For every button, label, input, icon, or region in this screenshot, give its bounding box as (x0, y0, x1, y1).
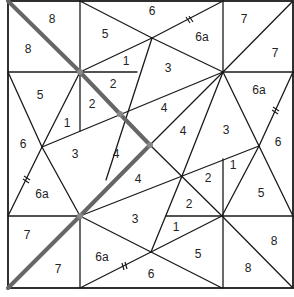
region-label: 3 (223, 123, 230, 137)
region-label: 1 (230, 158, 237, 172)
region-label: 1 (173, 220, 180, 234)
region-label: 3 (72, 147, 79, 161)
region-label: 5 (37, 88, 44, 102)
region-label: 2 (205, 171, 212, 185)
region-label: 7 (272, 46, 279, 60)
path-node (147, 142, 153, 148)
path-node (117, 111, 123, 117)
region-label: 6a (95, 250, 109, 264)
region-label: 2 (186, 197, 193, 211)
region-label: 5 (258, 186, 265, 200)
region-label: 2 (110, 77, 117, 91)
region-label: 7 (24, 228, 31, 242)
region-label: 4 (135, 172, 142, 186)
region-label: 3 (165, 61, 172, 75)
region-label: 5 (102, 27, 109, 41)
region-label: 6 (275, 135, 282, 149)
region-label: 6a (252, 83, 266, 97)
region-label: 8 (25, 42, 32, 56)
region-label: 3 (132, 212, 139, 226)
path-node (77, 69, 83, 75)
region-label: 7 (241, 12, 248, 26)
region-label: 6a (35, 187, 49, 201)
region-label: 6 (149, 4, 156, 18)
region-label: 6 (148, 267, 155, 281)
region-label: 1 (123, 54, 130, 68)
region-label: 2 (89, 97, 96, 111)
region-label: 6a (195, 30, 209, 44)
triangulated-square-diagram: 8 8 5 6 6a 7 7 1 3 5 2 2 1 4 6a 6 3 4 4 … (0, 0, 294, 297)
path-node (77, 213, 83, 219)
region-label: 4 (161, 101, 168, 115)
region-label: 4 (113, 147, 120, 161)
region-label: 7 (55, 262, 62, 276)
region-label: 5 (195, 247, 202, 261)
region-label: 8 (49, 12, 56, 26)
region-label: 1 (64, 116, 71, 130)
region-label: 6 (20, 137, 27, 151)
region-label: 8 (245, 261, 252, 275)
region-label: 8 (271, 234, 278, 248)
region-label: 4 (180, 124, 187, 138)
